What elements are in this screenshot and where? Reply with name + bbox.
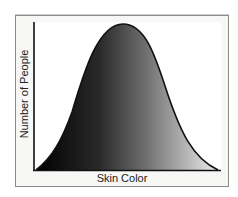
y-axis-label: Number of People — [18, 50, 30, 139]
x-axis-label: Skin Color — [97, 172, 148, 184]
bell-curve-plot — [0, 0, 238, 197]
